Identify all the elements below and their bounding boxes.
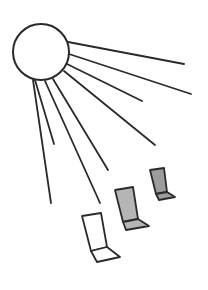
chair-back	[115, 187, 138, 222]
chair-seat	[123, 219, 149, 230]
sun-icon	[13, 24, 69, 80]
chair-back	[150, 168, 167, 194]
sun-chairs-diagram	[0, 0, 208, 290]
sun-ray-1	[68, 42, 184, 64]
chairs-group	[82, 168, 175, 262]
chair-seat	[156, 192, 175, 200]
chair-near-white	[82, 213, 120, 262]
chair-back	[82, 213, 107, 251]
diagram-canvas	[0, 0, 208, 290]
sun-ray-4	[64, 71, 155, 145]
sun-ray-5	[53, 79, 108, 170]
chair-far-gray	[150, 168, 175, 200]
chair-seat	[91, 247, 120, 262]
sun-ray-8	[33, 80, 51, 203]
chair-middle-gray	[115, 187, 149, 230]
